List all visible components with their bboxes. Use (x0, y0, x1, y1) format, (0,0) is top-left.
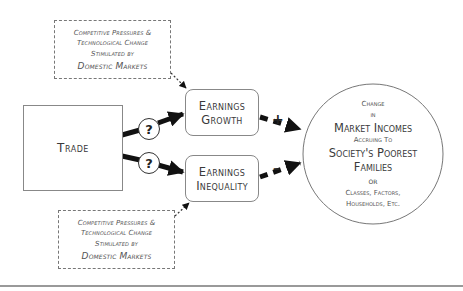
outcome-line-or: or (369, 174, 378, 188)
top-influence-box: Competitive Pressures & Technological Ch… (54, 20, 171, 79)
outcome-line-families: Families (354, 160, 392, 174)
outcome-line-accruing-to: Accruing To (354, 135, 392, 146)
earnings-inequality-box: Earnings Inequality (185, 155, 259, 202)
negative-effect-sign: – (273, 160, 280, 176)
trade-box: Trade (23, 105, 123, 191)
top-influence-line-4: Domestic Markets (78, 61, 148, 72)
inequality-to-outcome-arrow (260, 163, 300, 177)
outcome-line-households: Households, Etc. (346, 199, 400, 210)
top-influence-line-2: Technological Change (77, 38, 148, 49)
outcome-line-societys-poorest: Society's Poorest (329, 146, 417, 160)
outcome-line-classes: Classes, Factors, (345, 188, 400, 199)
bottom-influence-box: Competitive Pressures & Technological Ch… (58, 210, 175, 269)
earnings-growth-box: Earnings Growth (185, 89, 259, 136)
bottom-influence-line-4: Domestic Markets (82, 251, 152, 262)
unknown-effect-top: ? (138, 118, 160, 140)
unknown-effect-bottom: ? (138, 152, 160, 174)
earnings-inequality-line-1: Earnings (199, 165, 245, 179)
trade-to-inequality-arrow (122, 156, 140, 160)
earnings-inequality-line-2: Inequality (196, 179, 248, 193)
bottom-influence-line-3: Stimulated by (95, 239, 138, 250)
top-influence-line-3: Stimulated by (91, 49, 134, 60)
positive-effect-sign: + (272, 111, 284, 127)
bottom-influence-arrow (175, 203, 189, 216)
bottom-influence-line-1: Competitive Pressures & (78, 218, 156, 229)
bottom-influence-line-2: Technological Change (81, 228, 152, 239)
top-influence-line-1: Competitive Pressures & (74, 28, 152, 39)
outcome-line-market-incomes: Market Incomes (334, 121, 412, 135)
outcome-line-in: in (370, 110, 375, 121)
top-influence-arrow (171, 73, 186, 88)
earnings-growth-line-2: Growth (201, 113, 242, 127)
bottom-divider (0, 285, 463, 287)
trade-label: Trade (57, 141, 89, 155)
outcome-line-change: Change (362, 99, 385, 110)
earnings-growth-line-1: Earnings (199, 99, 245, 113)
outcome-text: Change in Market Incomes Accruing To Soc… (303, 84, 443, 224)
